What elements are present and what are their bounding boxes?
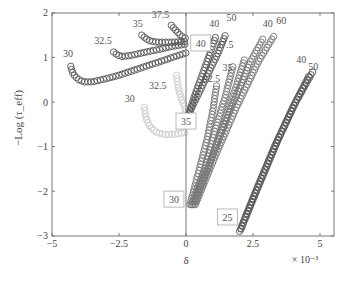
y-tick-label: −2	[37, 186, 48, 197]
y-tick-label: 1	[43, 52, 48, 63]
curve-annotation: 40	[263, 18, 273, 29]
y-axis-label: −Log (τ_eff)	[12, 90, 25, 146]
curve-annotation: 40	[296, 54, 306, 65]
curve-annotation: 50	[227, 12, 237, 23]
x-tick-label: 2.5	[247, 238, 260, 249]
x-tick-label: −5	[47, 238, 58, 249]
boxed-label: 40	[196, 38, 206, 49]
y-tick-label: −3	[37, 230, 48, 241]
boxed-label: 35	[181, 116, 191, 127]
y-tick-label: 0	[43, 97, 48, 108]
x-tick-label: −2.5	[110, 238, 128, 249]
y-tick-label: 2	[43, 7, 48, 18]
curve-annotation: 37.5	[216, 39, 234, 50]
curve-annotation: 32.5	[94, 35, 112, 46]
x-axis-label: δ	[183, 254, 188, 266]
y-tick-label: −1	[37, 141, 48, 152]
curve-annotation: 32.5	[203, 73, 221, 84]
curve-annotation: 35	[133, 18, 143, 29]
curve-annotation: 60	[276, 15, 286, 26]
curve-annotation: 50	[308, 61, 318, 72]
curve-annotation: 35	[223, 62, 233, 73]
boxed-label: 25	[223, 212, 233, 223]
curve-annotation: 30	[63, 48, 73, 59]
curve-annotation: 30	[125, 93, 135, 104]
x-tick-label: 0	[184, 238, 189, 249]
x-axis-multiplier: × 10⁻³	[292, 254, 318, 265]
x-tick-label: 5	[318, 238, 323, 249]
curve-annotation: 37.5	[152, 9, 170, 20]
curve-annotation: 32.5	[149, 80, 167, 91]
boxed-label: 30	[169, 194, 179, 205]
chart: −5−2.502.55210−1−2−3δ× 10⁻³−Log (τ_eff) …	[0, 0, 350, 281]
curve-annotation: 40	[209, 18, 219, 29]
